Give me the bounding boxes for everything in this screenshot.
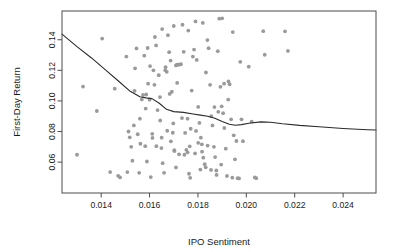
scatter-point xyxy=(168,92,172,96)
scatter-point xyxy=(137,171,141,175)
scatter-point xyxy=(179,62,183,66)
scatter-point xyxy=(154,144,158,148)
scatter-point xyxy=(160,146,164,150)
scatter-point xyxy=(182,50,186,54)
scatter-point xyxy=(221,111,225,115)
scatter-point xyxy=(146,82,150,86)
scatter-point xyxy=(150,132,154,136)
x-axis-tick-label: 0.024 xyxy=(332,200,354,210)
scatter-point xyxy=(189,127,193,131)
scatter-point xyxy=(220,16,224,20)
chart-figure: 0.0140.0160.0180.0200.0220.024 0.060.080… xyxy=(0,0,395,252)
scatter-point xyxy=(240,117,244,121)
scatter-point xyxy=(191,55,195,59)
scatter-point xyxy=(198,168,202,172)
scatter-point xyxy=(160,136,164,140)
scatter-point xyxy=(192,48,196,52)
scatter-point xyxy=(171,122,175,126)
scatter-point xyxy=(214,169,218,173)
scatter-point xyxy=(144,93,148,97)
scatter-point xyxy=(241,139,245,143)
scatter-point xyxy=(193,151,197,155)
scatter-point xyxy=(205,38,209,42)
scatter-point xyxy=(224,147,228,151)
scatter-point xyxy=(231,30,235,34)
scatter-point xyxy=(153,35,157,39)
y-axis-tick-label: 0.06 xyxy=(47,154,57,171)
scatter-point xyxy=(162,171,166,175)
x-axis-tick-label: 0.018 xyxy=(187,200,209,210)
scatter-point xyxy=(183,153,187,157)
scatter-point xyxy=(222,126,226,130)
scatter-point xyxy=(131,159,135,163)
scatter-point xyxy=(209,168,213,172)
scatter-point xyxy=(206,144,210,148)
scatter-point xyxy=(216,49,220,53)
scatter-point xyxy=(108,170,112,174)
y-axis-tick-label: 0.10 xyxy=(47,92,57,109)
x-axis-title: IPO Sentiment xyxy=(188,236,250,247)
y-axis-title: First-Day Return xyxy=(11,67,22,137)
scatter-point xyxy=(196,141,200,145)
scatter-point xyxy=(186,117,190,121)
scatter-point xyxy=(283,29,287,33)
scatter-point xyxy=(237,177,241,181)
scatter-point xyxy=(188,144,192,148)
scatter-point xyxy=(133,89,137,93)
scatter-point xyxy=(154,44,158,48)
scatter-point xyxy=(180,116,184,120)
scatter-point xyxy=(201,21,205,25)
scatter-point xyxy=(219,163,223,167)
scatter-point xyxy=(228,82,232,86)
scatter-point xyxy=(187,172,191,176)
scatter-point xyxy=(263,53,267,57)
scatter-point xyxy=(158,119,162,123)
scatter-point xyxy=(213,155,217,159)
scatter-point xyxy=(213,105,217,109)
scatter-point xyxy=(146,46,150,50)
x-axis-tick-label: 0.022 xyxy=(284,200,306,210)
scatter-point xyxy=(212,145,216,149)
scatter-point xyxy=(167,50,171,54)
scatter-point xyxy=(232,133,236,137)
scatter-point xyxy=(100,37,104,41)
scatter-point xyxy=(169,139,173,143)
scatter-point xyxy=(190,89,194,93)
scatter-point xyxy=(171,131,175,135)
scatter-point xyxy=(222,82,226,86)
scatter-point xyxy=(127,130,131,134)
scatter-point xyxy=(177,152,181,156)
scatter-point xyxy=(175,81,179,85)
scatter-point xyxy=(157,73,161,77)
scatter-point xyxy=(211,124,215,128)
scatter-point xyxy=(181,23,185,27)
scatter-point xyxy=(118,176,122,180)
scatter-point xyxy=(149,175,153,179)
scatter-point xyxy=(158,95,162,99)
y-axis-tick-label: 0.08 xyxy=(47,123,57,140)
scatter-point xyxy=(225,174,229,178)
scatter-point xyxy=(254,176,258,180)
scatter-point xyxy=(174,166,178,170)
scatter-point xyxy=(247,65,251,69)
scatter-point xyxy=(261,29,265,33)
scatter-point xyxy=(140,98,144,102)
scatter-point xyxy=(81,85,85,89)
x-axis-tick-label: 0.020 xyxy=(236,200,258,210)
scatter-point xyxy=(286,49,290,53)
scatter-point xyxy=(207,46,211,50)
scatter-point xyxy=(136,132,140,136)
scatter-point xyxy=(161,161,165,165)
scatter-point xyxy=(229,117,233,121)
scatter-plot-canvas: 0.0140.0160.0180.0200.0220.024 0.060.080… xyxy=(0,0,395,252)
scatter-point xyxy=(164,65,168,69)
scatter-point xyxy=(144,107,148,111)
scatter-point xyxy=(220,104,224,108)
scatter-point xyxy=(204,71,208,75)
scatter-point xyxy=(151,136,155,140)
scatter-point xyxy=(135,47,139,51)
scatter-point xyxy=(138,142,142,146)
x-axis-tick-label: 0.014 xyxy=(90,200,112,210)
scatter-point xyxy=(128,135,132,139)
scatter-point xyxy=(235,139,239,143)
